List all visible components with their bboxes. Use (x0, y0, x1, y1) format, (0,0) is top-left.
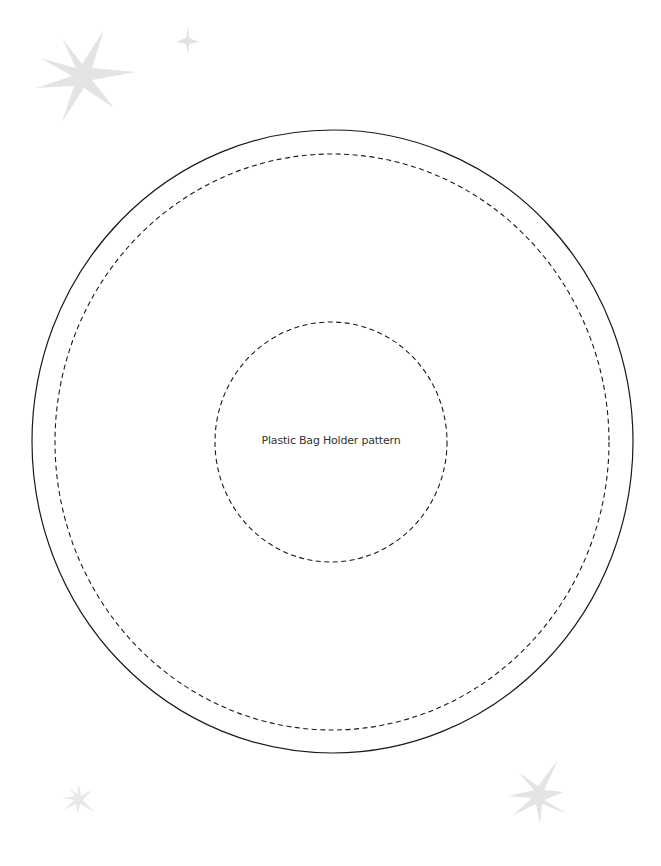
sparkle-bottom-right-icon (508, 760, 568, 824)
pattern-title: Plastic Bag Holder pattern (231, 434, 431, 447)
sparkle-bottom-left-icon (63, 784, 94, 815)
pattern-canvas (0, 0, 661, 866)
sparkle-small-top-icon (176, 26, 199, 55)
sparkle-large-top-left-icon (36, 30, 136, 122)
pattern-page: Plastic Bag Holder pattern (0, 0, 661, 866)
